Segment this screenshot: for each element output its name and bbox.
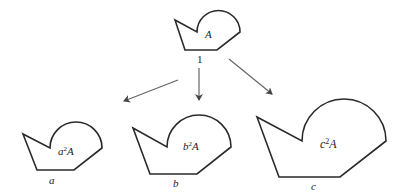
shape-b-label: b2A <box>183 140 199 152</box>
arrow-to-a <box>124 80 178 101</box>
shape-scaled-c: c2A c <box>257 99 386 192</box>
scale-factor-b: b <box>173 177 179 189</box>
shape-original: A 1 <box>175 11 240 66</box>
shape-original-label: A <box>204 28 212 40</box>
shape-scaled-a: a2A a <box>23 122 102 186</box>
scale-factor-a: a <box>49 174 55 186</box>
scale-factor-c: c <box>311 180 316 192</box>
shape-scaled-b: b2A b <box>133 115 231 189</box>
shape-c-label: c2A <box>320 137 337 151</box>
arrow-to-c <box>229 59 272 94</box>
scaling-diagram: A 1 a2A a b2A b c2A c <box>0 0 406 196</box>
scale-factor-one: 1 <box>197 53 203 65</box>
shape-a-label: a2A <box>58 145 74 157</box>
